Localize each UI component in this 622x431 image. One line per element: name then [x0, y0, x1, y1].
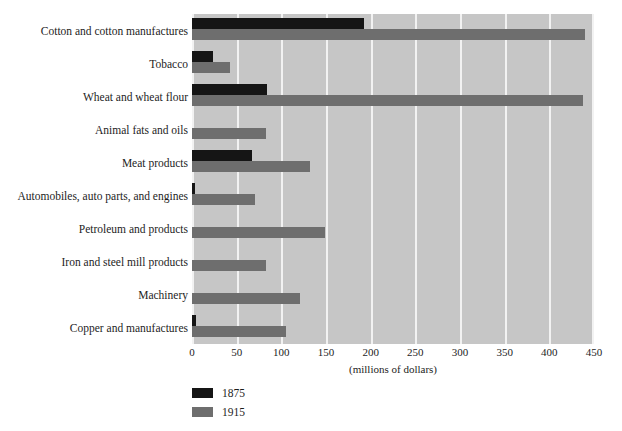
legend-item: 1915: [192, 404, 352, 420]
gridline: [460, 14, 462, 344]
x-tick-label: 300: [452, 346, 469, 359]
x-axis-title: (millions of dollars): [192, 363, 594, 376]
bar-1875: [192, 18, 364, 29]
x-tick-label: 100: [273, 346, 290, 359]
bar-1915: [192, 227, 325, 238]
x-tick-label: 350: [496, 346, 513, 359]
x-tick-label: 450: [586, 346, 603, 359]
bar-1915: [192, 62, 230, 73]
bar-chart: Cotton and cotton manufacturesTobaccoWhe…: [0, 0, 622, 431]
category-label: Wheat and wheat flour: [0, 91, 188, 103]
legend-item: 1875: [192, 385, 352, 401]
gridline: [326, 14, 328, 344]
category-axis-labels: Cotton and cotton manufacturesTobaccoWhe…: [0, 14, 188, 344]
category-label: Petroleum and products: [0, 223, 188, 235]
legend-label: 1915: [222, 406, 245, 419]
x-tick-label: 200: [362, 346, 379, 359]
category-label: Iron and steel mill products: [0, 256, 188, 268]
legend-swatch-icon: [192, 407, 213, 417]
bar-1915: [192, 293, 300, 304]
bar-1915: [192, 194, 255, 205]
gridline: [505, 14, 507, 344]
category-label: Cotton and cotton manufactures: [0, 25, 188, 37]
bar-1915: [192, 161, 310, 172]
legend-label: 1875: [222, 387, 245, 400]
bar-1915: [192, 128, 266, 139]
x-tick-label: 150: [318, 346, 335, 359]
bar-1875: [192, 84, 267, 95]
gridline: [592, 14, 594, 344]
plot-area: [192, 14, 594, 344]
gridline: [549, 14, 551, 344]
x-tick-label: 0: [189, 346, 195, 359]
category-label: Meat products: [0, 157, 188, 169]
bar-1915: [192, 326, 286, 337]
x-tick-label: 250: [407, 346, 424, 359]
bar-1915: [192, 260, 266, 271]
category-label: Machinery: [0, 289, 188, 301]
gridline: [415, 14, 417, 344]
bar-1915: [192, 29, 585, 40]
legend-swatch-icon: [192, 388, 213, 398]
gridline: [371, 14, 373, 344]
x-tick-label: 400: [541, 346, 558, 359]
category-label: Copper and manufactures: [0, 322, 188, 334]
category-label: Automobiles, auto parts, and engines: [0, 190, 188, 202]
bar-1875: [192, 150, 252, 161]
category-label: Animal fats and oils: [0, 124, 188, 136]
category-label: Tobacco: [0, 58, 188, 70]
x-axis-ticks: 050100150200250300350400450: [192, 346, 594, 362]
legend: 18751915: [192, 385, 352, 423]
bar-1875: [192, 51, 213, 62]
bar-1875: [192, 315, 196, 326]
x-tick-label: 50: [231, 346, 242, 359]
bar-1875: [192, 183, 195, 194]
bar-1915: [192, 95, 583, 106]
